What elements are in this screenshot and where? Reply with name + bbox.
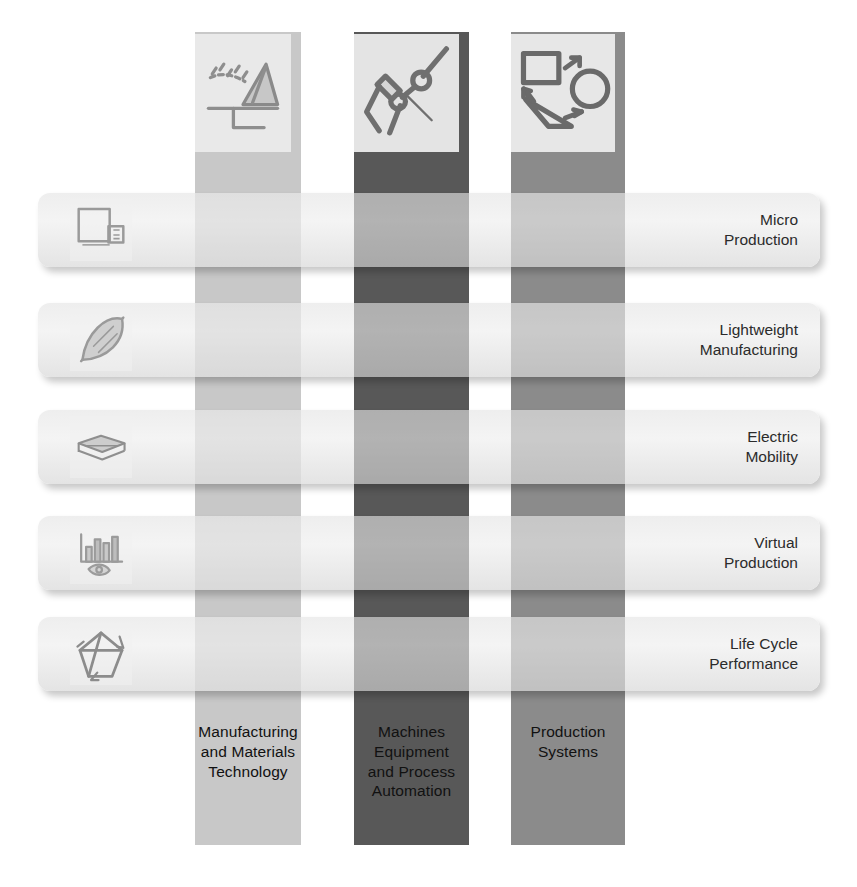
intersection-virtual-production--production-systems bbox=[511, 516, 625, 590]
chart-with-hand-icon bbox=[70, 522, 132, 584]
feather-icon bbox=[70, 309, 132, 371]
row-label: Virtual Production bbox=[724, 533, 798, 573]
scaling-squares-icon bbox=[70, 199, 132, 261]
row-micro-production[interactable]: Micro Production bbox=[38, 193, 820, 267]
intersection-life-cycle-performance--machines-equipment-and-process-automation bbox=[354, 617, 469, 691]
intersection-micro-production--manufacturing-and-materials-technology bbox=[195, 193, 301, 267]
battery-stack-icon-art bbox=[70, 416, 132, 478]
row-label: Lightweight Manufacturing bbox=[700, 320, 798, 360]
intersection-electric-mobility--machines-equipment-and-process-automation bbox=[354, 410, 469, 484]
intersection-micro-production--machines-equipment-and-process-automation bbox=[354, 193, 469, 267]
intersection-life-cycle-performance--production-systems bbox=[511, 617, 625, 691]
row-electric-mobility[interactable]: Electric Mobility bbox=[38, 410, 820, 484]
column-caption: Production Systems bbox=[511, 722, 625, 762]
cutting-tool-icon bbox=[195, 34, 291, 152]
row-label: Micro Production bbox=[724, 210, 798, 250]
feather-icon-art bbox=[70, 309, 132, 371]
column-caption: Manufacturing and Materials Technology bbox=[195, 722, 301, 781]
intersection-virtual-production--manufacturing-and-materials-technology bbox=[195, 516, 301, 590]
row-label: Electric Mobility bbox=[745, 427, 798, 467]
intersection-lightweight-manufacturing--machines-equipment-and-process-automation bbox=[354, 303, 469, 377]
process-flow-shapes-icon-art bbox=[511, 34, 615, 152]
cutting-tool-icon-art bbox=[195, 34, 291, 152]
row-column-intersections bbox=[38, 516, 820, 590]
row-label: Life Cycle Performance bbox=[709, 634, 798, 674]
cycle-arrows-icon bbox=[70, 623, 132, 685]
row-column-intersections bbox=[38, 617, 820, 691]
intersection-lightweight-manufacturing--production-systems bbox=[511, 303, 625, 377]
cycle-arrows-icon-art bbox=[70, 623, 132, 685]
intersection-life-cycle-performance--manufacturing-and-materials-technology bbox=[195, 617, 301, 691]
row-column-intersections bbox=[38, 193, 820, 267]
column-caption: Machines Equipment and Process Automatio… bbox=[354, 722, 469, 801]
row-virtual-production[interactable]: Virtual Production bbox=[38, 516, 820, 590]
row-life-cycle-performance[interactable]: Life Cycle Performance bbox=[38, 617, 820, 691]
intersection-lightweight-manufacturing--manufacturing-and-materials-technology bbox=[195, 303, 301, 377]
battery-stack-icon bbox=[70, 416, 132, 478]
row-column-intersections bbox=[38, 410, 820, 484]
intersection-electric-mobility--manufacturing-and-materials-technology bbox=[195, 410, 301, 484]
intersection-micro-production--production-systems bbox=[511, 193, 625, 267]
chart-with-hand-icon-art bbox=[70, 522, 132, 584]
row-lightweight-manufacturing[interactable]: Lightweight Manufacturing bbox=[38, 303, 820, 377]
robot-arm-icon bbox=[354, 34, 459, 152]
scaling-squares-icon-art bbox=[70, 199, 132, 261]
research-matrix-diagram: Manufacturing and Materials Technology M… bbox=[0, 0, 857, 887]
process-flow-shapes-icon bbox=[511, 34, 615, 152]
intersection-electric-mobility--production-systems bbox=[511, 410, 625, 484]
intersection-virtual-production--machines-equipment-and-process-automation bbox=[354, 516, 469, 590]
robot-arm-icon-art bbox=[354, 34, 459, 152]
